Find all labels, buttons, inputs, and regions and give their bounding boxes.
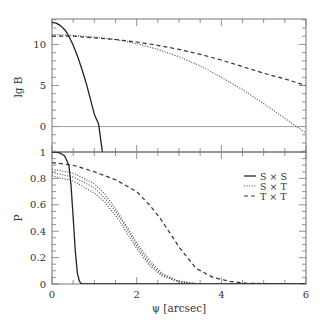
legend: S × SS × TT × T bbox=[244, 171, 288, 202]
top-y-axis-label: lg B bbox=[12, 76, 24, 97]
legend-label: T × T bbox=[260, 191, 287, 202]
y-tick-label: 0.8 bbox=[30, 173, 46, 184]
y-tick-label: 0.2 bbox=[30, 252, 46, 263]
top-panel: 0510 bbox=[33, 19, 306, 152]
y-tick-label: 0.6 bbox=[30, 199, 46, 210]
series-line-dashed bbox=[52, 36, 306, 85]
x-tick-label: 4 bbox=[218, 289, 224, 300]
y-tick-label: 0 bbox=[40, 121, 46, 132]
bottom-y-axis-label: P bbox=[12, 214, 24, 221]
chart-figure: 0510 00.20.40.60.810246 lg B P ψ [arcsec… bbox=[0, 0, 325, 332]
y-tick-label: 0 bbox=[40, 279, 46, 290]
y-tick-label: 10 bbox=[33, 39, 46, 50]
y-tick-label: 0.4 bbox=[30, 226, 46, 237]
series-line-solid bbox=[52, 22, 102, 152]
y-tick-label: 1 bbox=[40, 147, 46, 158]
x-tick-label: 2 bbox=[133, 289, 139, 300]
plot-frame bbox=[52, 19, 306, 152]
y-tick-label: 5 bbox=[40, 80, 46, 91]
x-tick-label: 6 bbox=[303, 289, 309, 300]
x-axis-label: ψ [arcsec] bbox=[152, 302, 206, 314]
x-tick-label: 0 bbox=[49, 289, 55, 300]
